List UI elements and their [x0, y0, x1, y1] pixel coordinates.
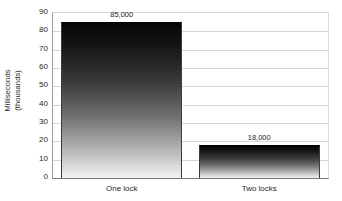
y-axis-tick-label: 50	[22, 81, 48, 89]
y-axis-tick-label: 40	[22, 100, 48, 108]
y-axis-tick-label: 70	[22, 45, 48, 53]
y-axis-title-line-1: Milliseconds	[3, 69, 13, 111]
y-axis-tick-label: 10	[22, 155, 48, 163]
y-axis-title: Milliseconds (thousands)	[0, 0, 24, 180]
x-axis-tick-label: One lock	[106, 184, 138, 194]
y-axis-tick-label: 20	[22, 136, 48, 144]
y-axis-tick-label: 60	[22, 63, 48, 71]
bar-chart: Milliseconds (thousands) 010203040506070…	[0, 0, 342, 201]
plot-area: 85,00018,000	[52, 12, 329, 179]
y-axis-tick-labels: 0102030405060708090	[22, 7, 48, 179]
y-axis-tick-label: 30	[22, 118, 48, 126]
bar[interactable]	[199, 145, 320, 178]
bars-layer: 85,00018,000	[53, 13, 328, 178]
bar-value-label: 18,000	[248, 134, 271, 142]
y-axis-tick-label: 80	[22, 26, 48, 34]
y-axis-tick-label: 0	[22, 173, 48, 181]
x-axis-tick-label: Two locks	[242, 184, 277, 194]
bar[interactable]	[61, 22, 182, 178]
y-axis-tick-label: 90	[22, 8, 48, 16]
bar-value-label: 85,000	[110, 11, 133, 19]
y-axis-title-line-2: (thousands)	[12, 69, 22, 111]
x-axis-tick-labels: One lockTwo locks	[52, 184, 329, 198]
